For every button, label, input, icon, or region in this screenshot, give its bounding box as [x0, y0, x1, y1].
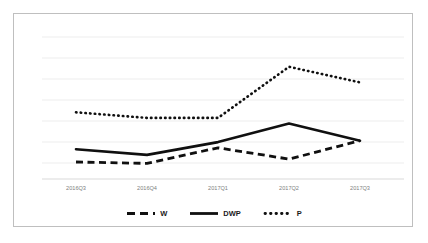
x-tick-label-3: 2017Q2 [279, 185, 299, 191]
legend-label-dwp: DWP [223, 209, 241, 218]
line-chart-plot: 2016Q3 2016Q4 2017Q1 2017Q2 2017Q3 [14, 14, 414, 228]
legend-item-w[interactable]: W [126, 209, 167, 218]
x-axis-tick-labels: 2016Q3 2016Q4 2017Q1 2017Q2 2017Q3 [66, 185, 370, 191]
legend-label-w: W [160, 209, 167, 218]
solid-line-marker-icon [189, 209, 219, 218]
legend-item-dwp[interactable]: DWP [189, 209, 241, 218]
x-tick-label-2: 2017Q1 [208, 185, 228, 191]
dashed-line-marker-icon [126, 209, 156, 218]
x-tick-label-4: 2017Q3 [350, 185, 370, 191]
x-tick-label-1: 2016Q4 [137, 185, 157, 191]
chart-frame: 2016Q3 2016Q4 2017Q1 2017Q2 2017Q3 W DWP… [13, 13, 413, 227]
legend-label-p: P [297, 209, 302, 218]
chart-legend: W DWP P [14, 202, 414, 224]
series-line-dwp [76, 124, 360, 155]
series-line-p [76, 67, 360, 118]
dotted-line-marker-icon [263, 209, 293, 218]
legend-item-p[interactable]: P [263, 209, 302, 218]
x-tick-label-0: 2016Q3 [66, 185, 86, 191]
